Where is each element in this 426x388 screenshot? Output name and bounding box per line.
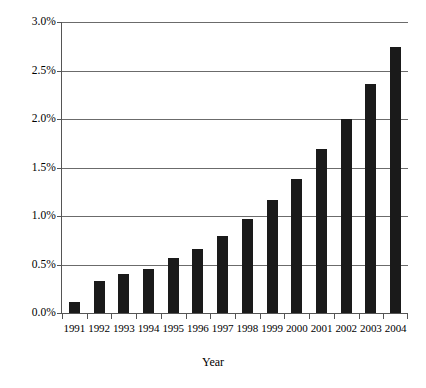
- y-axis-tick-label: 1.0%: [2, 210, 56, 222]
- x-axis-tick-label: 2002: [334, 322, 359, 335]
- bar: [291, 179, 302, 313]
- bar: [341, 119, 352, 313]
- x-axis-tick-mark: [383, 314, 384, 319]
- x-axis-tick-mark: [111, 314, 112, 319]
- bar: [242, 219, 253, 313]
- x-axis-tick-mark: [309, 314, 310, 319]
- x-axis-tick-mark: [210, 314, 211, 319]
- x-axis-tick-mark: [284, 314, 285, 319]
- y-axis-tick-label: 1.5%: [2, 162, 56, 174]
- gridline: [62, 119, 408, 120]
- gridline: [62, 168, 408, 169]
- y-axis-tick-label: 0.0%: [2, 307, 56, 319]
- x-axis-tick-mark: [359, 314, 360, 319]
- x-axis-tick-label: 2003: [359, 322, 384, 335]
- x-axis-tick-label: 1997: [210, 322, 235, 335]
- x-axis-tick-label: 1999: [260, 322, 285, 335]
- bar-chart: 0.0%0.5%1.0%1.5%2.0%2.5%3.0% 19911992199…: [0, 0, 426, 388]
- x-axis-ticks: [62, 314, 408, 320]
- x-axis-tick-label: 1996: [186, 322, 211, 335]
- y-axis-tick-label: 0.5%: [2, 259, 56, 271]
- bar: [267, 200, 278, 313]
- x-axis-tick-mark: [62, 314, 63, 319]
- x-axis-tick-mark: [334, 314, 335, 319]
- x-axis-tick-label: 1993: [111, 322, 136, 335]
- x-axis-tick-mark: [87, 314, 88, 319]
- bar: [316, 149, 327, 313]
- bar: [118, 274, 129, 313]
- x-axis-tick-mark: [161, 314, 162, 319]
- gridline: [62, 216, 408, 217]
- x-axis-title: Year: [0, 355, 426, 369]
- bar: [217, 236, 228, 313]
- y-axis-tick-label: 2.5%: [2, 65, 56, 77]
- x-axis-tick-label: 1992: [87, 322, 112, 335]
- y-axis-labels: 0.0%0.5%1.0%1.5%2.0%2.5%3.0%: [0, 0, 56, 388]
- x-axis-tick-label: 1994: [136, 322, 161, 335]
- x-axis-tick-label: 2001: [309, 322, 334, 335]
- x-axis-tick-label: 1995: [161, 322, 186, 335]
- gridline: [62, 71, 408, 72]
- bar: [168, 258, 179, 313]
- x-axis-tick-label: 1998: [235, 322, 260, 335]
- y-axis-tick-label: 3.0%: [2, 16, 56, 28]
- bar: [365, 84, 376, 313]
- x-axis-tick-mark: [260, 314, 261, 319]
- x-axis-tick-mark: [186, 314, 187, 319]
- x-axis-tick-mark: [407, 314, 408, 319]
- x-axis-tick-label: 2000: [284, 322, 309, 335]
- x-axis-tick-label: 2004: [383, 322, 408, 335]
- x-axis-tick-mark: [136, 314, 137, 319]
- gridline: [62, 265, 408, 266]
- x-axis-tick-label: 1991: [62, 322, 87, 335]
- y-axis-tick-label: 2.0%: [2, 113, 56, 125]
- bar: [69, 302, 80, 313]
- plot-area: [62, 22, 408, 313]
- bar: [390, 47, 401, 313]
- bar: [143, 269, 154, 313]
- x-axis-tick-mark: [235, 314, 236, 319]
- bar: [94, 281, 105, 313]
- x-axis-labels: 1991199219931994199519961997199819992000…: [62, 322, 408, 338]
- gridline: [62, 22, 408, 23]
- bar: [192, 249, 203, 313]
